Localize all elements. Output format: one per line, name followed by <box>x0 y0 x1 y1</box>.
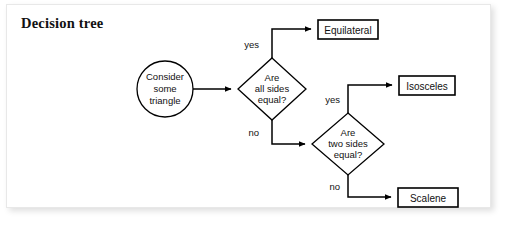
start-label-line1: Consider <box>146 71 184 82</box>
edge-label-question2-yes: yes <box>325 94 340 105</box>
edge-question1-yes-to-equilateral <box>272 29 311 58</box>
edge-label-question1-yes: yes <box>244 39 259 50</box>
question1-label-line1: Are <box>265 72 280 83</box>
scalene-label: Scalene <box>410 193 447 204</box>
edge-label-question2-no: no <box>329 181 340 192</box>
edge-question2-no-to-scalene <box>348 175 391 197</box>
decision-tree-figure: Decision tree Consider some triangle A <box>0 0 506 231</box>
equilateral-label: Equilateral <box>324 25 371 36</box>
node-question-all-sides-equal: Are all sides equal? <box>238 58 306 120</box>
question2-label-line3: equal? <box>334 149 363 160</box>
edge-question2-yes-to-isosceles <box>348 85 392 113</box>
decision-tree-diagram: Consider some triangle Are all sides equ… <box>0 0 506 231</box>
question1-label-line3: equal? <box>258 94 287 105</box>
question2-label-line1: Are <box>341 127 356 138</box>
edge-label-question1-no: no <box>248 127 259 138</box>
question2-label-line2: two sides <box>328 138 368 149</box>
isosceles-label: Isosceles <box>406 81 448 92</box>
start-label-line2: some <box>153 83 176 94</box>
node-question-two-sides-equal: Are two sides equal? <box>312 113 384 175</box>
node-scalene: Scalene <box>398 188 458 207</box>
question1-label-line2: all sides <box>255 83 290 94</box>
edge-question1-no-to-question2 <box>272 120 305 144</box>
node-equilateral: Equilateral <box>318 20 378 39</box>
start-label-line3: triangle <box>149 95 180 106</box>
node-start: Consider some triangle <box>137 61 193 117</box>
node-isosceles: Isosceles <box>399 76 455 95</box>
